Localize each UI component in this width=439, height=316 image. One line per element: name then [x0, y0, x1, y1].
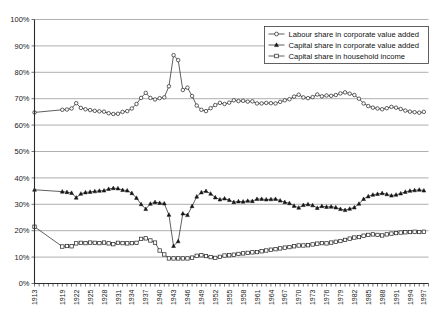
data-point — [200, 254, 203, 257]
data-point — [251, 100, 255, 104]
data-point — [61, 245, 64, 248]
data-point — [288, 245, 291, 248]
data-point — [353, 236, 356, 239]
data-point — [74, 101, 78, 105]
x-tick-label: 1946 — [184, 289, 191, 305]
data-point — [246, 100, 250, 104]
x-tick-label: 1940 — [156, 289, 163, 305]
x-tick-label: 1925 — [87, 289, 94, 305]
data-point — [278, 100, 282, 104]
data-point — [311, 243, 314, 246]
x-tick-label: 1922 — [73, 289, 80, 305]
x-tick-label: 1994 — [407, 289, 414, 305]
data-point — [65, 244, 68, 247]
data-point — [149, 239, 152, 242]
data-point — [348, 92, 352, 96]
data-point — [214, 103, 218, 107]
chart-legend: Labour share in corporate value addedCap… — [265, 27, 429, 64]
data-point — [274, 247, 277, 250]
legend-label: Capital share in household income — [289, 52, 406, 61]
data-point — [190, 256, 193, 259]
data-point — [292, 95, 296, 99]
x-tick-label: 1931 — [115, 289, 122, 305]
x-tick-label: 1955 — [226, 289, 233, 305]
data-point — [121, 110, 125, 114]
data-point — [116, 112, 120, 116]
legend-marker-circle-icon — [275, 32, 279, 36]
x-tick-label: 1991 — [393, 289, 400, 305]
data-point — [329, 94, 333, 98]
data-point — [390, 232, 393, 235]
data-point — [316, 93, 320, 97]
data-point — [209, 106, 213, 110]
data-point — [297, 93, 301, 97]
data-point — [195, 104, 199, 108]
y-tick-label: 60% — [14, 121, 29, 130]
data-point — [265, 249, 268, 252]
data-point — [320, 241, 323, 244]
data-point — [353, 93, 357, 97]
data-point — [348, 237, 351, 240]
data-point — [237, 252, 240, 255]
data-point — [176, 58, 180, 62]
y-tick-label: 40% — [14, 174, 29, 183]
data-point — [232, 99, 236, 103]
legend-label: Labour share in corporate value added — [289, 30, 419, 39]
legend-label: Capital share in corporate value added — [289, 41, 419, 50]
data-point — [422, 110, 426, 114]
data-point — [102, 110, 106, 114]
data-point — [380, 234, 383, 237]
data-point — [126, 242, 129, 245]
data-point — [88, 241, 91, 244]
data-point — [390, 105, 394, 109]
data-point — [371, 106, 375, 110]
data-point — [223, 254, 226, 257]
data-point — [283, 246, 286, 249]
data-point — [121, 241, 124, 244]
data-point — [325, 94, 329, 98]
data-point — [88, 108, 92, 112]
data-point — [209, 255, 212, 258]
x-tick-label: 1952 — [212, 289, 219, 305]
data-point — [65, 108, 69, 112]
y-tick-label: 70% — [14, 94, 29, 103]
data-point — [376, 233, 379, 236]
data-point — [413, 230, 416, 233]
line-chart: 0%10%20%30%40%50%60%70%80%90%100% 191319… — [0, 0, 439, 316]
x-tick-label: 1973 — [309, 289, 316, 305]
data-point — [343, 238, 346, 241]
data-point — [130, 241, 133, 244]
data-point — [366, 104, 370, 108]
data-point — [357, 97, 361, 101]
data-point — [394, 231, 397, 234]
data-point — [149, 96, 153, 100]
x-tick-label: 1979 — [337, 289, 344, 305]
data-point — [190, 94, 194, 98]
data-point — [116, 241, 119, 244]
data-point — [79, 106, 83, 110]
data-point — [316, 242, 319, 245]
data-point — [112, 242, 115, 245]
data-point — [417, 111, 421, 115]
data-point — [158, 249, 161, 252]
data-point — [167, 85, 171, 89]
data-point — [79, 241, 82, 244]
data-point — [75, 242, 78, 245]
x-tick-label: 1985 — [365, 289, 372, 305]
data-point — [153, 98, 157, 102]
data-point — [214, 256, 217, 259]
x-tick-label: 1958 — [240, 289, 247, 305]
data-point — [195, 254, 198, 257]
x-tick-label: 1988 — [379, 289, 386, 305]
data-point — [107, 111, 111, 115]
data-point — [325, 242, 328, 245]
x-tick-label: 1937 — [142, 289, 149, 305]
data-point — [139, 237, 142, 240]
data-point — [139, 96, 143, 100]
data-point — [163, 253, 166, 256]
data-point — [218, 101, 222, 105]
data-point — [130, 107, 134, 111]
x-tick-label: 1934 — [128, 289, 135, 305]
data-point — [255, 102, 259, 106]
data-point — [186, 86, 190, 90]
